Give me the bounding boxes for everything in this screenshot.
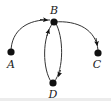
node-b-label: B xyxy=(49,4,58,17)
node-c xyxy=(94,49,101,56)
bottom-border xyxy=(0,98,111,101)
node-a-label: A xyxy=(6,58,15,71)
node-c-label: C xyxy=(93,58,102,71)
node-a xyxy=(7,48,14,55)
edge-a-to-b-arrowhead xyxy=(40,20,46,21)
edge-b-to-d xyxy=(54,22,62,82)
node-d xyxy=(49,79,56,86)
edge-d-to-b xyxy=(45,23,53,83)
directed-graph: A B C D xyxy=(0,0,111,101)
node-b xyxy=(50,18,57,25)
edge-a-to-b xyxy=(11,20,50,52)
